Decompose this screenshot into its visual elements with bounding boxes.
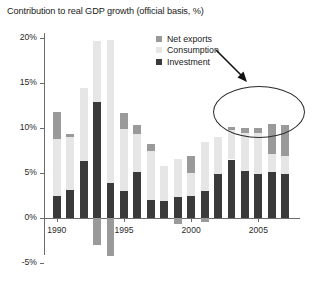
bar-segment-net-exports [268,124,276,155]
bar-segment-investment [107,183,115,218]
chart-title: Contribution to real GDP growth (officia… [7,6,204,16]
chart-figure: Contribution to real GDP growth (officia… [0,0,313,285]
y-axis-tick-mark [40,218,44,219]
y-axis-tick: 20% [2,38,44,39]
plot-area: -5%0%5%10%15%20% 1990199520002005 [44,33,300,255]
bar-segment-consumption [120,129,128,191]
bar-segment-net-exports [133,125,141,134]
bar-segment-investment [174,197,182,218]
bar-segment-investment [228,160,236,219]
bar-segment-investment [160,201,168,218]
bar-segment-net-exports [241,128,249,133]
bar-segment-net-exports [281,125,289,156]
bar-group [147,33,155,255]
bar-segment-net-exports [107,218,115,256]
bar-segment-net-exports [66,134,74,137]
bar-segment-net-exports [254,128,262,133]
bar-segment-consumption [201,142,209,191]
bar-segment-net-exports [147,144,155,151]
bar-segment-consumption [66,137,74,190]
y-axis-tick-mark [40,263,44,264]
bar-group [133,33,141,255]
bar-segment-investment [241,171,249,218]
bar-group [53,33,61,255]
bar-segment-net-exports [53,112,61,139]
bar-segment-investment [147,200,155,218]
y-axis-tick-label: 10% [20,122,37,132]
bar-segment-investment [120,191,128,218]
bar-group [241,33,249,255]
bar-segment-consumption [228,130,236,160]
y-axis-tick-label: 20% [20,32,37,42]
bar-segment-consumption [147,151,155,200]
bar-segment-consumption [254,133,262,174]
bar-segment-consumption [80,88,88,162]
bar-group [268,33,276,255]
bar-segment-consumption [93,41,101,102]
bar-segment-investment [133,172,141,218]
bar-segment-investment [93,102,101,218]
bar-group [160,33,168,255]
y-axis-tick-label: 5% [25,167,37,177]
bar-group [174,33,182,255]
y-axis-tick-mark [40,83,44,84]
bar-segment-consumption [187,173,195,196]
bar-group [120,33,128,255]
bar-segment-investment [201,191,209,218]
bar-segment-investment [53,196,61,218]
bar-group [80,33,88,255]
bar-segment-investment [80,161,88,218]
bar-segment-consumption [107,40,115,183]
y-axis-tick: 0% [2,218,44,219]
bar-group [201,33,209,255]
y-axis-tick: -5% [2,263,44,264]
bar-segment-consumption [214,137,222,174]
bar-group [254,33,262,255]
bar-segment-investment [214,174,222,218]
bar-group [107,33,115,255]
y-axis-line [44,33,45,255]
y-axis-tick-label: 15% [20,77,37,87]
bar-segment-net-exports [174,218,182,224]
bar-group [93,33,101,255]
y-axis-tick: 15% [2,83,44,84]
y-axis-tick-label: 0% [25,212,37,222]
bar-segment-consumption [53,139,61,197]
bar-group [214,33,222,255]
bar-segment-investment [281,174,289,218]
bar-segment-net-exports [120,113,128,129]
y-axis-tick-mark [40,173,44,174]
y-axis-tick-mark [40,128,44,129]
bar-segment-investment [254,174,262,218]
bar-segment-investment [187,196,195,219]
bar-segment-net-exports [201,218,209,222]
bar-segment-consumption [268,154,276,172]
y-axis-tick-label: -5% [22,257,37,267]
bar-segment-consumption [241,133,249,171]
bar-group [228,33,236,255]
bar-group [66,33,74,255]
y-axis-tick: 5% [2,173,44,174]
bar-group [281,33,289,255]
bar-segment-net-exports [93,218,101,245]
bar-segment-investment [268,172,276,218]
y-axis-tick: 10% [2,128,44,129]
bar-segment-net-exports [228,127,236,130]
bar-segment-consumption [281,156,289,174]
bar-segment-net-exports [187,156,195,173]
bar-segment-investment [66,190,74,218]
bar-segment-consumption [160,166,168,201]
bar-segment-consumption [174,159,182,198]
bar-group [187,33,195,255]
bar-segment-consumption [133,134,141,172]
y-axis-tick-mark [40,38,44,39]
